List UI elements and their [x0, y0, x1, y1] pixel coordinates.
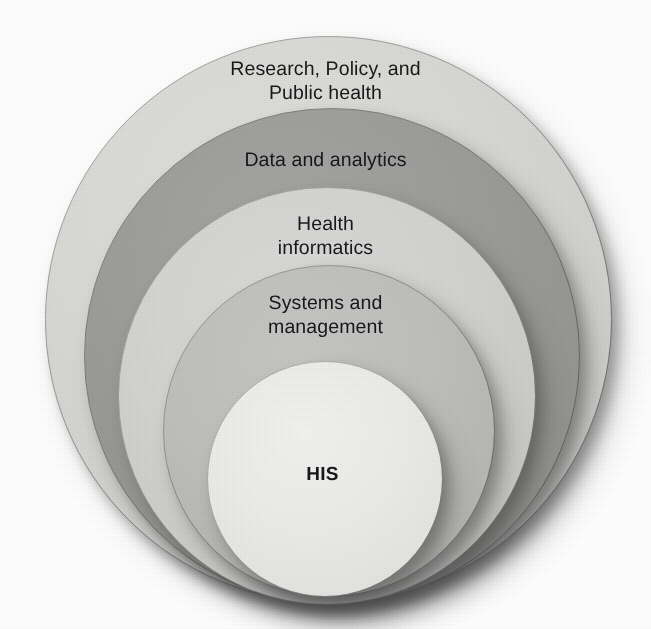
- nested-circles-diagram: Research, Policy, and Public health Data…: [0, 0, 651, 629]
- label-systems-and-management: Systems and management: [0, 292, 651, 340]
- label-his: HIS: [0, 463, 648, 486]
- label-health-informatics: Health informatics: [0, 213, 651, 261]
- label-data-and-analytics: Data and analytics: [0, 149, 651, 173]
- label-research-policy-public-health: Research, Policy, and Public health: [0, 58, 651, 106]
